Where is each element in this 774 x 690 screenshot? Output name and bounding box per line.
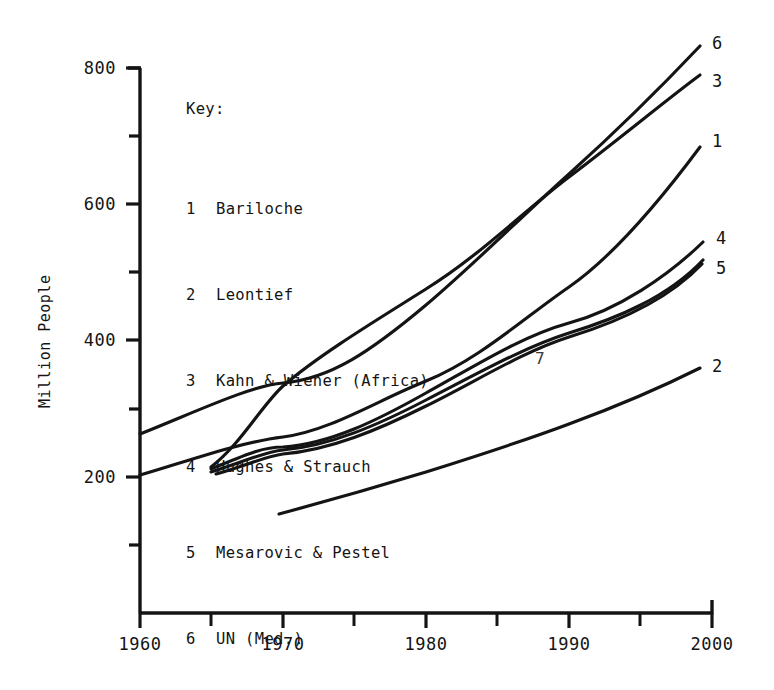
series-end-label-5: 5 <box>716 258 727 278</box>
series-end-label-3: 3 <box>712 71 723 91</box>
chart-figure: 800 600 400 200 1960 1970 1980 1990 2000… <box>0 0 774 690</box>
legend-item-4-number: 4 <box>186 457 216 479</box>
series-end-label-4: 4 <box>716 228 727 248</box>
legend-item-6-number: 6 <box>186 629 216 651</box>
legend-item-1-label: Bariloche <box>216 200 303 218</box>
legend-item-4: 4Hughes & Strauch <box>186 457 429 479</box>
legend-item-3: 3Kahn & Wiener (Africa) <box>186 371 429 393</box>
y-axis-ticks <box>126 68 140 545</box>
series-end-label-1: 1 <box>712 131 723 151</box>
legend-item-5-number: 5 <box>186 543 216 565</box>
series-end-label-2: 2 <box>712 356 723 376</box>
legend-title: Key: <box>186 99 429 121</box>
legend-item-6: 6UN (Med.) <box>186 629 429 651</box>
legend-item-2: 2Leontief <box>186 285 429 307</box>
y-axis-title: Million People <box>36 275 54 408</box>
legend-item-1-number: 1 <box>186 199 216 221</box>
y-tick-label-800: 800 <box>52 58 116 78</box>
legend-item-5: 5Mesarovic & Pestel <box>186 543 429 565</box>
x-tick-label-1960: 1960 <box>105 634 175 654</box>
legend-item-2-label: Leontief <box>216 286 293 304</box>
y-tick-label-600: 600 <box>52 194 116 214</box>
series-inline-label-7: 7 <box>535 349 545 368</box>
legend-item-3-number: 3 <box>186 371 216 393</box>
x-tick-label-2000: 2000 <box>677 634 747 654</box>
legend-item-2-number: 2 <box>186 285 216 307</box>
legend-item-3-label: Kahn & Wiener (Africa) <box>216 372 429 390</box>
x-tick-label-1990: 1990 <box>534 634 604 654</box>
y-tick-label-400: 400 <box>52 330 116 350</box>
legend-item-5-label: Mesarovic & Pestel <box>216 544 390 562</box>
legend-item-1: 1Bariloche <box>186 199 429 221</box>
series-end-label-6: 6 <box>712 33 723 53</box>
legend-item-4-label: Hughes & Strauch <box>216 458 371 476</box>
legend-item-6-label: UN (Med.) <box>216 630 303 648</box>
y-tick-label-200: 200 <box>52 467 116 487</box>
legend-key: Key: 1Bariloche 2Leontief 3Kahn & Wiener… <box>186 56 429 690</box>
